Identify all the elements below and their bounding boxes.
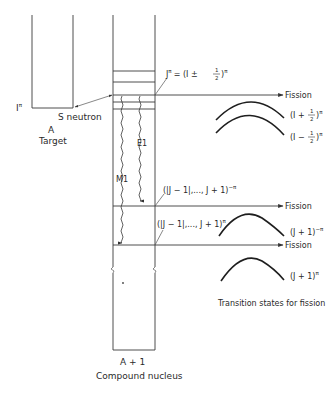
- plus-frac-num: 1: [310, 108, 314, 114]
- transition-states-caption: Transition states for fission: [217, 299, 325, 308]
- s-neutron-arrow: [75, 95, 112, 107]
- barrier-curve-middle: [219, 214, 284, 236]
- capture-close: )π: [221, 68, 228, 79]
- capture-state-leader: [155, 78, 167, 95]
- m1-transition-wave: [121, 96, 123, 243]
- compound-levels: [113, 71, 155, 109]
- e1-level-label: (|J − 1|,..., J + 1)−π: [163, 184, 237, 195]
- barrier-label-lower: (J + 1)π: [290, 270, 319, 281]
- e1-transition-wave: [139, 96, 141, 201]
- m1-label: M1: [116, 175, 128, 184]
- e1-level-leader: [155, 194, 164, 206]
- compound-name-label: Compound nucleus: [96, 371, 183, 381]
- compound-A-label: A + 1: [120, 357, 145, 367]
- barrier-label-minus: (I −: [290, 133, 305, 142]
- fission-label-3: Fission: [285, 241, 312, 250]
- barrier-curve-upper-minus: [216, 115, 284, 135]
- barrier-curve-upper-plus: [216, 102, 284, 120]
- target-name-label: Target: [38, 136, 67, 146]
- capture-frac-num: 1: [215, 67, 219, 73]
- barrier-curve-lower: [221, 258, 284, 281]
- target-spin-label: Iπ: [16, 102, 23, 113]
- target-A-label: A: [48, 125, 55, 135]
- minus-frac-den: 2: [310, 138, 314, 144]
- m1-level-label: (|J − 1|,..., J + 1)π: [157, 218, 226, 229]
- capture-state-label: Jπ= (I ±: [165, 68, 198, 79]
- minus-close: )π: [316, 131, 323, 142]
- fission-label-2: Fission: [285, 202, 312, 211]
- barrier-label-plus: (I +: [290, 111, 305, 120]
- s-neutron-label: S neutron: [58, 112, 102, 122]
- compound-nucleus-fission-diagram: Iπ A Target S neutron Fission Fission Fi…: [0, 0, 335, 395]
- minus-frac-num: 1: [310, 130, 314, 136]
- capture-frac-den: 2: [215, 75, 219, 81]
- plus-close: )π: [316, 109, 323, 120]
- m1-level-leader: [155, 230, 163, 245]
- plus-frac-den: 2: [310, 116, 314, 122]
- fission-label-1: Fission: [285, 91, 312, 100]
- e1-label: E1: [137, 139, 147, 148]
- dot-mark: [122, 282, 124, 284]
- barrier-label-middle: (J + 1)−π: [290, 226, 324, 237]
- target-well: [32, 15, 73, 108]
